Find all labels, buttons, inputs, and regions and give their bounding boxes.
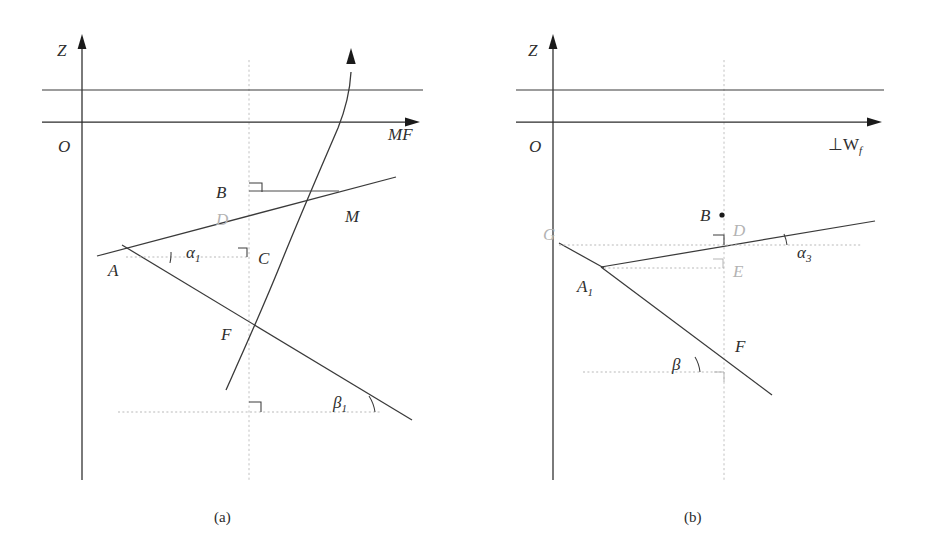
panel-b-angle-label-alpha3: α3 [797,243,812,264]
panel-a-curve-arrowhead [346,48,355,64]
panel-a-line-a-to-f [122,245,412,420]
panel-a-mf-curve [226,72,351,390]
panel-b-angle-arc-beta [695,357,700,372]
panel-a-angle-label-alpha1: α1 [186,243,200,264]
panel-b-point-label-g: G [543,225,555,244]
panel-a-label-mf: MF [387,125,413,144]
panel-b-point-label-e: E [732,262,744,281]
panel-a-angle-arc-beta1 [369,396,375,412]
panel-b-right-angle-baseline [714,372,724,382]
panel-b-right-angle-e [713,259,723,268]
panel-a-label-o: O [58,137,70,156]
panel-a-point-label-b: B [216,183,227,202]
panel-b-z-axis-arrowhead [549,34,558,49]
panel-a-right-angle-c [238,248,247,257]
panel-a-angle-label-beta1: β1 [332,393,347,414]
panel-a-label-z: Z [57,41,67,60]
panel-a-caption: (a) [214,509,231,526]
panel-b-line-a1-to-f [601,267,772,395]
diagram-svg: Z O MF B D M C A F α1 β1 (a) [0,0,933,553]
panel-b-point-marker-b [719,212,724,217]
panel-a-right-angle-baseline [249,402,261,412]
panel-b-caption: (b) [684,509,702,526]
panel-a-point-label-f: F [220,325,232,344]
panel-b-angle-label-beta: β [671,355,681,374]
panel-b-point-label-a1: A1 [576,277,593,298]
panel-a-point-label-m: M [344,207,360,226]
panel-a-point-label-c: C [258,249,270,268]
panel-b-right-angle-d [713,235,724,245]
panel-b-label-z: Z [528,41,538,60]
panel-b-label-wf: ⊥Wf [828,135,864,156]
panel-b-point-label-d: D [732,221,746,240]
panel-b: Z O ⊥Wf G B D E A1 F α3 β (b) [516,34,884,526]
panel-b-label-o: O [529,137,541,156]
panel-a: Z O MF B D M C A F α1 β1 (a) [42,34,423,526]
panel-b-line-g-to-a1 [559,243,604,268]
panel-b-horizontal-axis-arrowhead [867,118,882,127]
panel-a-point-label-a: A [107,261,119,280]
panel-b-point-label-b: B [700,206,711,225]
panel-a-z-axis-arrowhead [78,34,87,49]
panel-b-point-label-f: F [734,337,746,356]
figure-root: Z O MF B D M C A F α1 β1 (a) [0,0,933,553]
panel-a-point-label-d: D [215,210,229,229]
